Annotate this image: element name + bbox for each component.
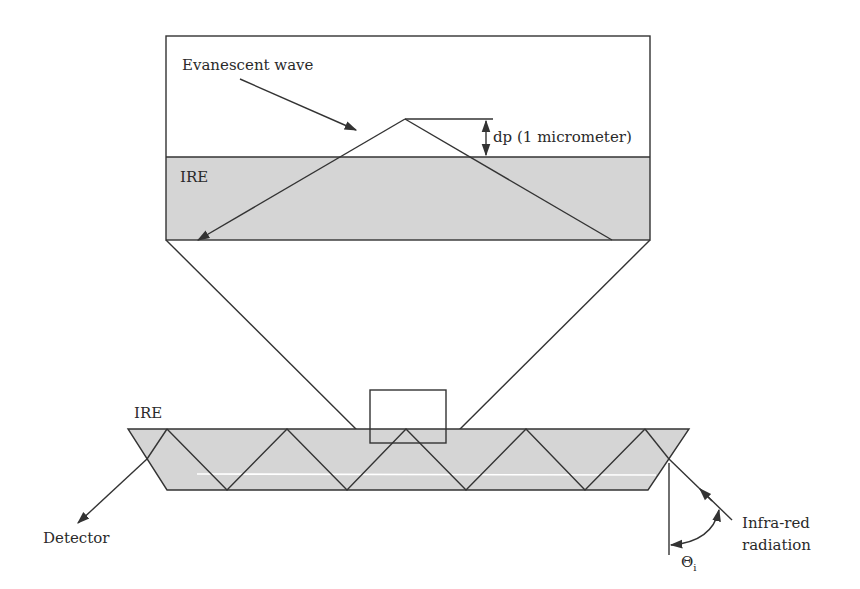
ire-highlight-line	[197, 474, 656, 475]
detector-group: Detector	[43, 459, 147, 547]
ire-trapezoid	[128, 429, 689, 490]
inset-panel: Evanescent wave dp (1 micrometer) IRE	[166, 36, 650, 240]
source-label-line2: radiation	[742, 536, 811, 554]
incident-ray-arrow	[700, 489, 712, 501]
evanescent-wave-label: Evanescent wave	[182, 56, 314, 74]
incidence-angle-arc	[671, 510, 719, 545]
detector-arrow	[78, 459, 147, 523]
angle-theta: Θ	[681, 553, 693, 571]
detector-label: Detector	[43, 529, 110, 547]
angle-symbol: Θi	[681, 553, 697, 573]
atr-diagram: Evanescent wave dp (1 micrometer) IRE IR…	[0, 0, 860, 589]
ire-crystal: IRE	[128, 390, 689, 490]
evanescent-pointer-arrow	[240, 79, 356, 130]
funnel-line-right	[446, 240, 650, 443]
depth-label: dp (1 micrometer)	[493, 128, 632, 146]
angle-subscript: i	[693, 562, 696, 573]
crystal-ire-label: IRE	[134, 404, 162, 422]
source-label-line1: Infra-red	[742, 514, 810, 532]
magnification-lines	[166, 240, 650, 443]
inset-ire-label: IRE	[180, 168, 208, 186]
funnel-line-left	[166, 240, 370, 443]
inset-ire-region	[166, 157, 650, 240]
source-group: Θi Infra-red radiation	[669, 459, 811, 573]
